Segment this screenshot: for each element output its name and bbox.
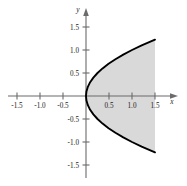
y-tick-label: 1.0 xyxy=(70,47,79,55)
y-tick-label: -1.0 xyxy=(68,139,80,147)
x-tick-label: -0.5 xyxy=(57,102,69,110)
parabola-plot: -1.5 -1.0 -0.5 0.5 1.0 1.5 1.5 1.0 0.5 -… xyxy=(0,0,187,186)
graph-figure: -1.5 -1.0 -0.5 0.5 1.0 1.5 1.5 1.0 0.5 -… xyxy=(0,0,187,186)
y-tick-label: 1.5 xyxy=(70,24,79,32)
y-tick-label: -1.5 xyxy=(68,162,80,170)
x-tick-label: 1.5 xyxy=(151,102,160,110)
y-axis-arrow xyxy=(83,8,89,16)
x-axis-label: x xyxy=(169,97,174,106)
x-tick-label: -1.5 xyxy=(11,102,23,110)
y-tick-label: -0.5 xyxy=(68,116,80,124)
y-axis-label: y xyxy=(75,5,80,14)
x-tick-label: 1.0 xyxy=(128,102,137,110)
y-tick-label: 0.5 xyxy=(70,70,79,78)
x-tick-label: 0.5 xyxy=(105,102,114,110)
x-tick-label: -1.0 xyxy=(34,102,46,110)
